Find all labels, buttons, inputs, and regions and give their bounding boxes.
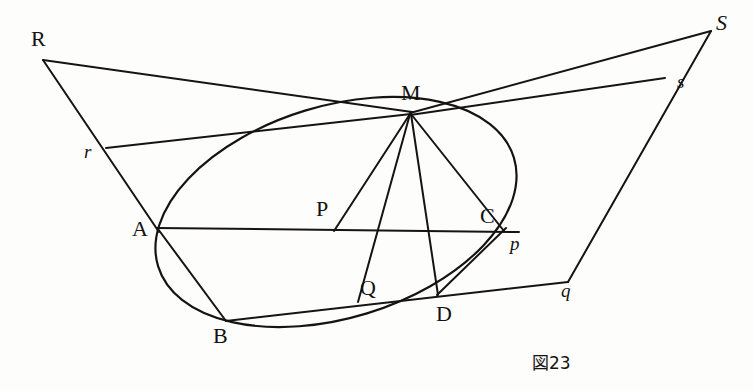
segment-R-A: [43, 60, 159, 232]
label-R: R: [31, 28, 46, 50]
label-P: P: [316, 198, 328, 220]
segment-r-M: [106, 114, 411, 148]
label-B: B: [213, 325, 228, 347]
label-s: s: [677, 72, 684, 91]
segment-M-D: [411, 114, 438, 295]
segment-R-M: [43, 60, 412, 112]
label-p: p: [510, 234, 520, 253]
geometry-canvas: [0, 0, 754, 391]
segment-C-D: [437, 228, 506, 295]
segment-M-Q: [358, 114, 410, 302]
figure-23-diagram: RSMrsABCDPQpq 図23: [0, 0, 754, 391]
label-A: A: [132, 218, 148, 240]
figure-caption: 図23: [532, 349, 571, 374]
label-Q: Q: [360, 277, 376, 299]
label-q: q: [561, 281, 571, 300]
segment-S-q: [568, 31, 711, 282]
segment-M-s: [410, 78, 665, 115]
label-M: M: [401, 82, 421, 104]
segment-M-P: [334, 114, 410, 231]
segment-A-C: [157, 228, 519, 232]
label-C: C: [480, 205, 495, 227]
segment-M-S: [410, 31, 711, 113]
label-D: D: [436, 303, 452, 325]
label-S: S: [716, 12, 727, 34]
label-r: r: [84, 142, 91, 161]
segment-B-q: [226, 282, 568, 321]
